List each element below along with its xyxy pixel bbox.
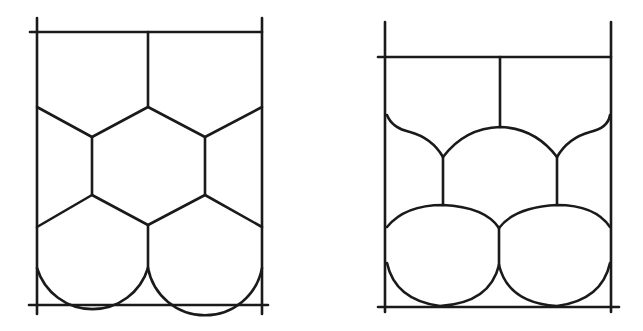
left-panel [29, 18, 268, 315]
right-panel [378, 22, 619, 312]
cell-walls [387, 57, 610, 306]
cell-walls [37, 32, 262, 315]
foam-diagram [0, 0, 643, 331]
